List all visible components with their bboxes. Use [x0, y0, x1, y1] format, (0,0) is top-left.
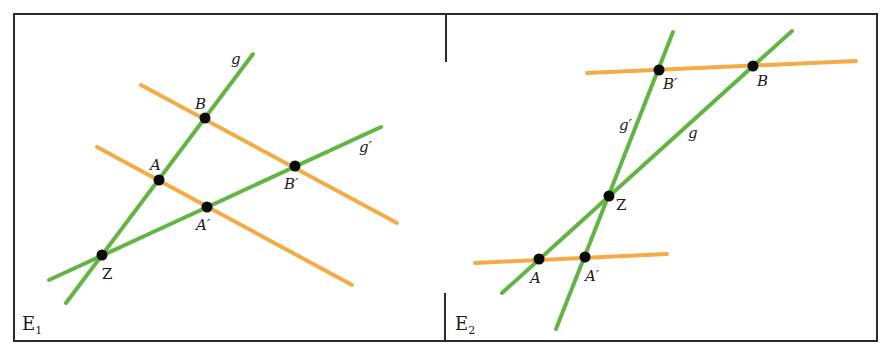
label-g: g: [231, 50, 241, 68]
point-b: [200, 113, 211, 124]
label-b-prime: B′: [283, 175, 299, 193]
parallel-line-a: [97, 147, 352, 285]
point-a: [534, 254, 545, 265]
point-z: [604, 191, 615, 202]
point-b: [748, 61, 759, 72]
label-b-prime: B′: [662, 75, 678, 93]
plane-label-e1: E1: [22, 313, 42, 337]
label-b: B: [194, 95, 206, 113]
parallel-line-b: [587, 61, 856, 73]
point-a-prime: [202, 202, 213, 213]
panel-e2: B′ B g′ g Z A A′ E2: [455, 31, 856, 337]
point-b-prime: [654, 65, 665, 76]
label-a: A: [528, 269, 541, 287]
label-z: Z: [616, 196, 626, 214]
point-a-prime: [580, 252, 591, 263]
parallel-line-a: [475, 254, 667, 263]
point-a: [154, 175, 165, 186]
central-projection-diagram: g g′ B A A′ B′ Z E1 B′ B g′ g Z A A′ E2: [0, 0, 884, 357]
point-z: [97, 250, 108, 261]
figure-frame: [14, 14, 877, 341]
point-b-prime: [290, 161, 301, 172]
plane-label-e2: E2: [455, 313, 475, 337]
panel-e1: g g′ B A A′ B′ Z E1: [22, 50, 397, 337]
label-a-prime: A′: [583, 267, 600, 285]
label-a-prime: A′: [194, 216, 211, 234]
line-g-prime: [556, 32, 673, 329]
label-b: B: [756, 72, 768, 90]
label-a: A: [148, 156, 161, 174]
label-g-prime: g′: [619, 116, 633, 134]
label-g: g: [688, 124, 698, 142]
label-g-prime: g′: [359, 138, 373, 156]
label-z: Z: [102, 265, 112, 283]
